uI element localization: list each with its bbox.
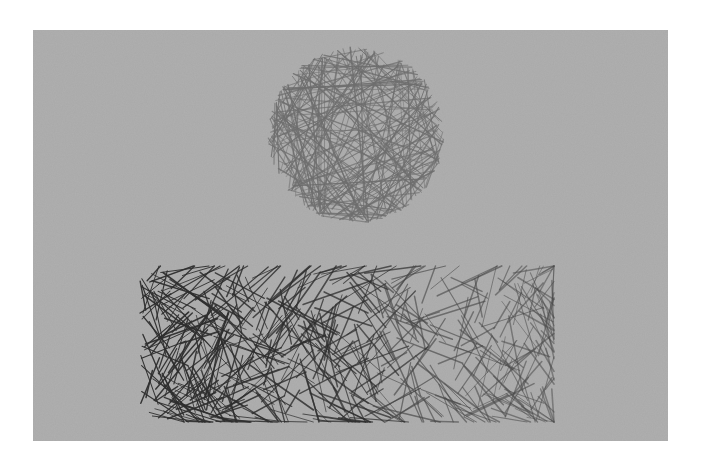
paper-panel: Pencil hatching illustration on gray pap… — [33, 30, 668, 441]
hatching-drawing — [33, 30, 668, 441]
